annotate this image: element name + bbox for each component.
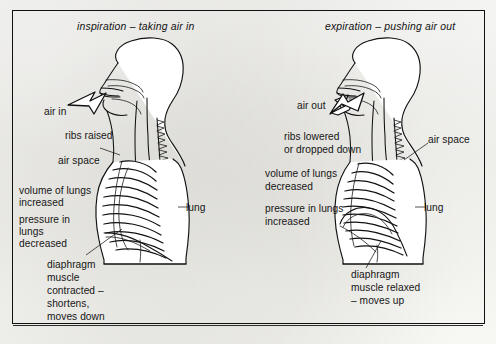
pressure-label-left-line3: decreased: [19, 237, 67, 250]
air-in-label: air in: [44, 105, 66, 118]
pressure-label-right-line2: increased: [265, 215, 310, 228]
ribs-lowered-label-line1: ribs lowered: [284, 130, 340, 143]
diaphragm-label-right-line3: – moves up: [351, 294, 404, 307]
diaphragm-label-left-line2: muscle: [47, 271, 80, 284]
diaphragm-label-left-line5: moves down: [47, 310, 105, 323]
volume-label-right-line1: volume of lungs: [265, 167, 337, 180]
volume-label-left-line2: increased: [19, 196, 64, 209]
bottom-divider-line: [13, 325, 483, 326]
inspiration-heading: inspiration – taking air in: [77, 21, 194, 32]
air-space-label-right: air space: [428, 133, 470, 146]
outer-frame: [12, 10, 485, 324]
air-space-label-left: air space: [58, 154, 100, 167]
expiration-heading: expiration – pushing air out: [325, 21, 455, 32]
diaphragm-label-left-line1: diaphragm: [47, 258, 96, 271]
pressure-label-right-line1: pressure in lungs: [265, 202, 343, 215]
lung-label-left: lung: [186, 201, 205, 214]
air-out-label: air out: [297, 99, 326, 112]
ribs-lowered-label-line2: or dropped down: [284, 143, 361, 156]
lung-label-right: lung: [424, 201, 443, 214]
ribs-raised-label: ribs raised: [65, 129, 113, 142]
diaphragm-label-left-line4: shortens,: [47, 297, 89, 310]
diaphragm-label-left-line3: contracted –: [47, 284, 104, 297]
diaphragm-label-right-line1: diaphragm: [351, 268, 400, 281]
volume-label-right-line2: decreased: [265, 180, 313, 193]
diaphragm-label-right-line2: muscle relaxed: [351, 281, 420, 294]
